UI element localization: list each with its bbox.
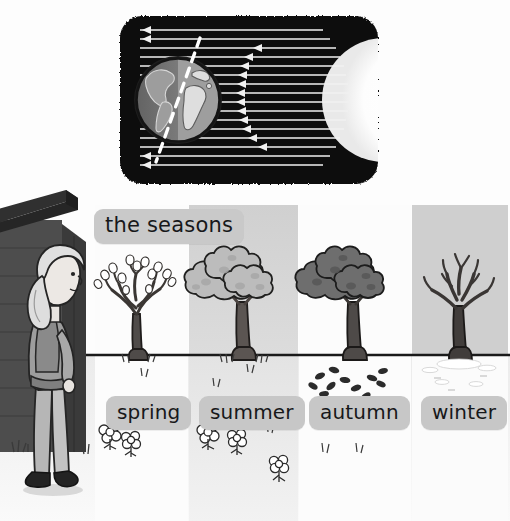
- label-autumn: autumn: [309, 396, 410, 430]
- panel-backdrop-winter-ground: [412, 355, 508, 521]
- illustration-canvas: the seasons spring summer autumn winter: [0, 0, 510, 521]
- label-winter: winter: [421, 396, 507, 430]
- seasons-scene: [0, 190, 510, 521]
- panel-backdrop-spring: [95, 205, 188, 521]
- page-title: the seasons: [94, 209, 244, 244]
- label-summer: summer: [199, 396, 305, 430]
- earth-sun-diagram: [118, 14, 380, 186]
- label-spring: spring: [106, 396, 191, 430]
